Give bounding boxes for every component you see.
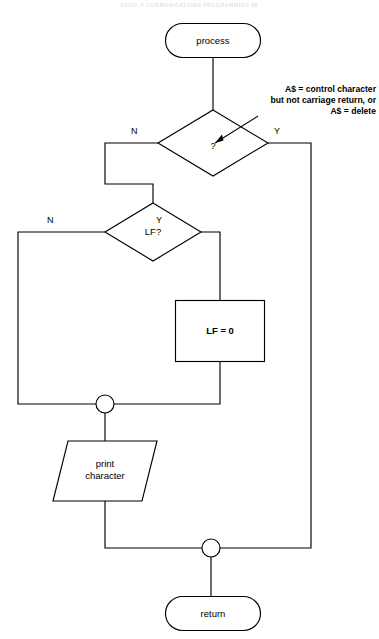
figure-page: CHAP. 4 COMMUNICATIONS PROGRAMMING 99 (0, 0, 379, 639)
print-character-io-label: print character (55, 458, 155, 482)
edge-assign-to-upper-merge-path (114, 361, 220, 404)
control-char-annotation-line3: A$ = delete (228, 106, 376, 117)
branch-label-lf-yes: Y (156, 215, 162, 225)
end-terminal-label: return (165, 596, 261, 631)
control-char-annotation: A$ = control character but not carriage … (228, 84, 376, 117)
branch-label-control-char-no: N (131, 126, 138, 136)
branch-label-lf-no: N (47, 215, 54, 225)
edge-decision-no-path (105, 143, 158, 203)
print-character-io-label-line2: character (55, 470, 155, 482)
edge-lf-yes-path (201, 232, 220, 300)
control-char-annotation-line2: but not carriage return, or (228, 95, 376, 106)
print-character-io-label-line1: print (55, 458, 155, 470)
start-terminal-label: process (165, 23, 261, 58)
control-char-annotation-line1: A$ = control character (228, 84, 376, 95)
merge-junction-lower-shape (202, 539, 220, 557)
edge-print-to-lower-merge-path (105, 501, 202, 548)
control-char-decision-label: ? (196, 139, 230, 153)
merge-junction-upper-shape (96, 395, 114, 413)
branch-label-control-char-yes: Y (274, 126, 280, 136)
lf-decision-label: LF? (130, 225, 176, 239)
edge-lf-no-path (18, 232, 105, 404)
lf-assign-process-label: LF = ⁠0 (175, 300, 265, 362)
